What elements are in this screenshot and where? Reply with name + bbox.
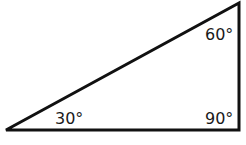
angle-label-bottom-left: 30°	[55, 109, 83, 128]
angle-label-top-right: 60°	[205, 25, 233, 44]
angle-label-bottom-right: 90°	[205, 109, 233, 128]
triangle-diagram: 30° 60° 90°	[0, 0, 246, 145]
